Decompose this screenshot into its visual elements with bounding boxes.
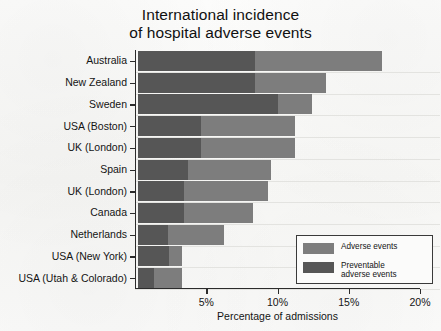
legend-label-adverse-events: Adverse events [341,242,397,251]
y-axis-category-label: Australia [0,55,135,66]
x-axis-tick [420,289,421,294]
legend-item-preventable-adverse-events: Preventable adverse events [303,261,397,280]
y-axis-category-label: Canada [0,207,135,218]
y-axis-category-label: USA (Utah & Colorado) [0,273,135,284]
x-axis-tick-label: 20% [409,296,430,308]
legend-swatch-adverse-events [303,243,334,254]
legend-label-preventable-adverse-events: Preventable adverse events [341,261,397,280]
chart-title: International incidence of hospital adve… [0,6,441,42]
chart-title-line-1: International incidence [0,6,441,24]
y-axis-category-label: New Zealand [0,77,135,88]
legend-swatch-preventable-adverse-events [303,262,334,273]
x-axis-tick [206,289,207,294]
x-axis-title: Percentage of admissions [135,310,420,322]
y-axis-category-label: Spain [0,164,135,175]
y-axis-category-label: Sweden [0,99,135,110]
chart-title-line-2: of hospital adverse events [0,24,441,42]
gridline [135,289,440,290]
chart-figure: International incidence of hospital adve… [0,0,441,331]
chart-legend: Adverse events Preventable adverse event… [296,235,433,284]
y-axis-category-label: UK (London) [0,142,135,153]
x-axis-tick [278,289,279,294]
x-axis-tick [349,289,350,294]
x-axis-tick-label: 10% [267,296,288,308]
y-axis-category-label: UK (London) [0,186,135,197]
x-axis-tick-label: 5% [199,296,214,308]
y-axis-category-label: Netherlands [0,229,135,240]
x-axis-tick-label: 15% [338,296,359,308]
legend-item-adverse-events: Adverse events [303,242,397,254]
y-axis-category-label: USA (New York) [0,251,135,262]
y-axis-category-label: USA (Boston) [0,121,135,132]
